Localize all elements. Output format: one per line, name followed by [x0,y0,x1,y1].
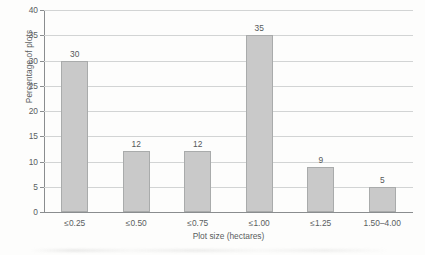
bar-rect[interactable] [369,187,396,212]
y-tick-mark [40,35,44,36]
y-axis-tick-label: 20 [29,106,38,116]
bar-value-label: 35 [255,23,264,33]
gridline [44,61,413,62]
y-tick-mark [40,111,44,112]
y-axis-tick-label: 35 [29,30,38,40]
y-axis-tick-label: 5 [33,182,38,192]
x-axis-tick-label: ≤0.50 [126,218,147,228]
y-axis-tick-label: 0 [33,207,38,217]
x-axis-tick-label: 1.50–4.00 [364,218,401,228]
y-tick-mark [40,61,44,62]
bar[interactable]: 12 [123,10,150,212]
bar[interactable]: 9 [307,10,334,212]
gridline [44,86,413,87]
y-axis-tick-label: 10 [29,157,38,167]
y-tick-mark [40,10,44,11]
x-axis-tick-label: ≤1.25 [310,218,331,228]
bar-value-label: 30 [70,49,79,59]
plot-area: 05101520253035403012123595 [44,10,413,212]
bar[interactable]: 12 [184,10,211,212]
gridline [44,35,413,36]
y-tick-mark [40,212,44,213]
y-axis-tick-label: 40 [29,5,38,15]
bar-rect[interactable] [61,61,88,213]
bar[interactable]: 5 [369,10,396,212]
x-axis-tick-label: ≤0.25 [64,218,85,228]
bar-value-label: 5 [380,175,385,185]
y-axis-tick-label: 15 [29,131,38,141]
gridline [44,136,413,137]
y-tick-mark [40,187,44,188]
bar-rect[interactable] [307,167,334,212]
x-axis-title: Plot size (hectares) [44,231,413,241]
bar-value-label: 12 [193,139,202,149]
y-tick-mark [40,86,44,87]
y-axis-tick-label: 30 [29,56,38,66]
bar-rect[interactable] [246,35,273,212]
bar-value-label: 12 [132,139,141,149]
scan-artifact [30,249,390,252]
x-axis-tick-label: ≤0.75 [187,218,208,228]
gridline [44,111,413,112]
gridline [44,162,413,163]
y-axis-tick-label: 25 [29,81,38,91]
gridline [44,10,413,11]
bar-rect[interactable] [123,151,150,212]
bar-chart: Percentage of plots 05101520253035403012… [0,0,425,255]
bar[interactable]: 35 [246,10,273,212]
gridline [44,187,413,188]
y-tick-mark [40,162,44,163]
y-axis-title: Percentage of plots [25,0,34,142]
bar[interactable]: 30 [61,10,88,212]
y-tick-mark [40,136,44,137]
bar-rect[interactable] [184,151,211,212]
x-axis-tick-label: ≤1.00 [249,218,270,228]
x-axis-line [44,212,413,213]
bar-value-label: 9 [318,155,323,165]
